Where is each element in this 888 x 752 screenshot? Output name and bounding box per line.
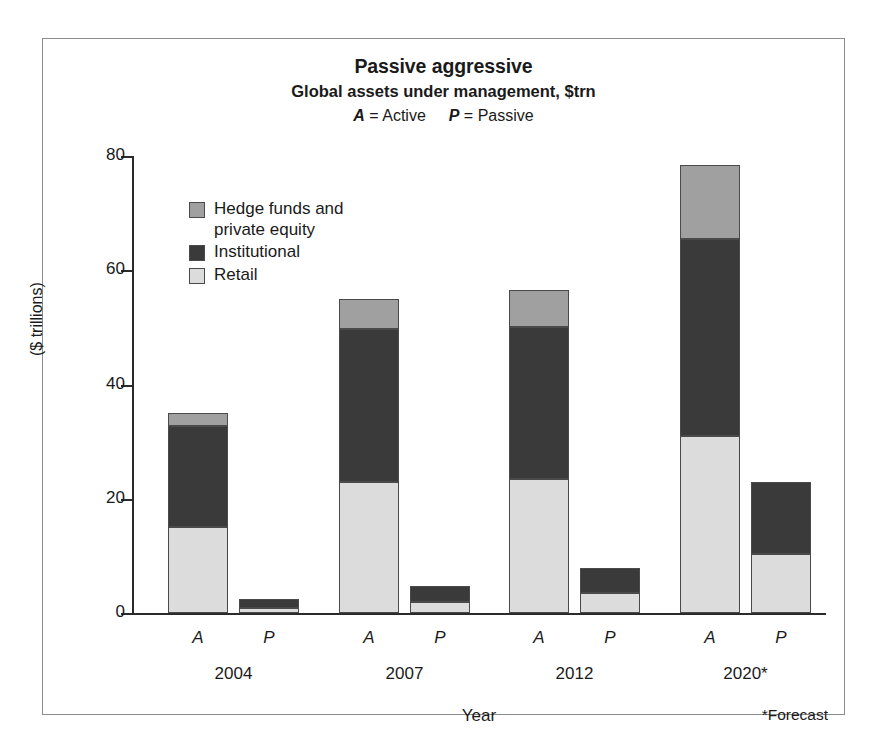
bar-segment-hedge [168,413,228,426]
legend-item[interactable]: Institutional [189,242,429,263]
key-active-word: = Active [369,107,425,124]
bar-stack[interactable] [509,290,569,613]
y-tick-label: 40 [106,374,125,394]
bar-segment-hedge [509,290,569,327]
x-tick-label-ap: P [761,628,801,648]
x-tick-label-ap: P [249,628,289,648]
x-group-label-year: 2007 [360,664,450,684]
x-tick-label-ap: P [420,628,460,648]
legend-label: Hedge funds and private equity [214,199,344,240]
bar-segment-retail [680,436,740,613]
chart-title: Passive aggressive [43,55,844,77]
x-axis-line [132,613,826,615]
bar-stack[interactable] [168,413,228,613]
bar-segment-institutional [580,568,640,593]
x-tick-label-ap: A [349,628,389,648]
x-group-label-year: 2012 [530,664,620,684]
key-passive-word: = Passive [464,107,534,124]
legend-swatch-icon [189,202,205,218]
bar-stack[interactable] [339,299,399,613]
x-axis-title: Year [132,706,826,726]
bar-segment-retail [509,479,569,613]
bar-segment-retail [339,482,399,613]
bar-segment-hedge [339,299,399,329]
title-block: Passive aggressive Global assets under m… [43,55,844,126]
legend-item[interactable]: Retail [189,265,429,286]
chart-subtitle: Global assets under management, $trn [43,82,844,101]
y-tick-label: 20 [106,488,125,508]
x-group-label-year: 2004 [189,664,279,684]
bar-segment-institutional [410,586,470,601]
y-tick-label: 0 [116,602,125,622]
bar-stack[interactable] [580,568,640,613]
bar-segment-retail [168,527,228,613]
chart-key-note: A = Active P = Passive [43,107,844,125]
y-tick-label: 60 [106,259,125,279]
legend-swatch-icon [189,245,205,261]
bar-segment-retail [410,602,470,613]
y-axis-title: ($ trillions) [28,282,46,356]
bar-segment-institutional [168,426,228,527]
bar-stack[interactable] [239,599,299,613]
bar-stack[interactable] [680,165,740,613]
key-passive-letter: P [449,107,460,124]
bar-stack[interactable] [410,586,470,613]
forecast-footnote: *Forecast [762,706,828,724]
x-tick-label-ap: P [590,628,630,648]
x-tick-label-ap: A [690,628,730,648]
x-tick-label-ap: A [519,628,559,648]
bar-stack[interactable] [751,482,811,613]
bar-segment-institutional [751,482,811,555]
bar-segment-retail [239,608,299,613]
bar-segment-institutional [680,239,740,436]
bar-segment-institutional [509,327,569,478]
legend-label: Institutional [214,242,300,263]
bar-segment-institutional [239,599,299,609]
bar-segment-hedge [680,165,740,239]
x-tick-label-ap: A [178,628,218,648]
bar-segment-retail [751,554,811,613]
x-group-label-year: 2020* [701,664,791,684]
legend-swatch-icon [189,268,205,284]
key-active-letter: A [353,107,365,124]
legend-item[interactable]: Hedge funds and private equity [189,199,429,240]
bar-segment-retail [580,593,640,613]
bar-segment-institutional [339,329,399,482]
chart-legend: Hedge funds and private equityInstitutio… [189,199,429,288]
figure-frame: Passive aggressive Global assets under m… [42,38,845,715]
y-tick-label: 80 [106,145,125,165]
legend-label: Retail [214,265,257,286]
